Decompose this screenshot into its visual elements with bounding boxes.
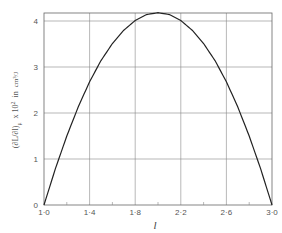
x-tick-label: 2·2 [175,208,187,217]
y-tick-labels: 01234 [34,17,39,210]
y-tick-label: 0 [34,201,39,210]
x-tick-label: 1·0 [38,208,50,217]
y-axis-unit: cm³/J [12,72,20,88]
data-curve [44,13,272,205]
chart: 1·01·41·82·22·63·0 01234 l (∂L/∂l)μx 102… [0,0,282,233]
y-tick-label: 1 [34,155,39,164]
x-tick-labels: 1·01·41·82·22·63·0 [38,208,278,217]
minor-ticks [67,202,249,205]
svg-text:(∂L/∂l)μx 102incm³/J: (∂L/∂l)μx 102incm³/J [10,72,22,149]
plot-frame [44,13,272,205]
x-axis-title: l [153,219,156,231]
x-tick-label: 2·6 [221,208,233,217]
y-tick-label: 2 [34,109,39,118]
x-tick-label: 1·8 [129,208,141,217]
y-tick-label: 4 [34,17,39,26]
y-axis-title: (∂L/∂l)μx 102incm³/J [10,72,22,149]
y-tick-label: 3 [34,63,39,72]
y-axis-multiplier: x 10 [11,104,20,118]
x-tick-label: 3·0 [266,208,278,217]
y-axis-unit-prefix: in [11,91,20,97]
x-tick-label: 1·4 [84,208,96,217]
y-axis-exponent: 2 [10,101,16,104]
y-axis-derivative: (∂L/∂l) [11,125,20,148]
y-axis-subscript: μ [16,122,22,125]
grid-lines [44,13,272,205]
